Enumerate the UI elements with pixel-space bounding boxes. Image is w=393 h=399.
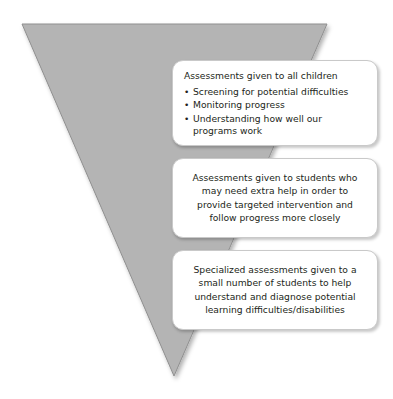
tier-1-bullet-list: • Screening for potential difficulties •… bbox=[184, 86, 366, 138]
tier-1-box: Assessments given to all children • Scre… bbox=[172, 60, 378, 146]
tier-1-bullet-item: • Screening for potential difficulties bbox=[184, 86, 366, 99]
tier-1-bullet-text: Understanding how well our programs work bbox=[193, 113, 322, 137]
tier-3-box: Specialized assessments given to a small… bbox=[172, 250, 378, 330]
tier-1-bullet-text: Screening for potential difficulties bbox=[193, 86, 348, 97]
tier-3-body: Specialized assessments given to a small… bbox=[186, 263, 364, 317]
tier-1-bullet-item: • Monitoring progress bbox=[184, 99, 366, 112]
bullet-dot-icon: • bbox=[184, 99, 189, 112]
tier-1-heading: Assessments given to all children bbox=[184, 69, 366, 82]
diagram-canvas: Assessments given to all children • Scre… bbox=[0, 0, 393, 399]
tier-1-bullet-text: Monitoring progress bbox=[193, 99, 285, 110]
tier-1-bullet-item: • Understanding how well our programs wo… bbox=[184, 113, 366, 139]
bullet-dot-icon: • bbox=[184, 113, 189, 126]
tier-2-box: Assessments given to students who may ne… bbox=[172, 158, 378, 238]
bullet-dot-icon: • bbox=[184, 86, 189, 99]
tier-2-body: Assessments given to students who may ne… bbox=[186, 171, 364, 225]
